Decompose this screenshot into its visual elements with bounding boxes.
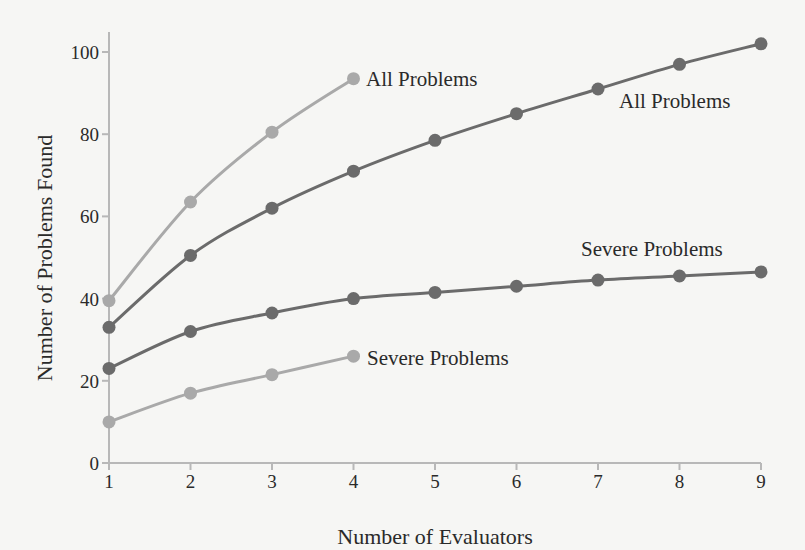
series-label: Severe Problems <box>367 346 509 370</box>
data-point <box>510 280 523 293</box>
data-point <box>266 202 279 215</box>
data-point <box>266 368 279 381</box>
y-axis-title: Number of Problems Found <box>32 135 57 381</box>
x-axis-title: Number of Evaluators <box>337 524 533 549</box>
data-point <box>103 321 116 334</box>
data-point <box>429 134 442 147</box>
y-tick-label: 60 <box>80 206 99 227</box>
data-point <box>347 292 360 305</box>
data-point <box>673 58 686 71</box>
x-tick-label: 9 <box>756 471 766 492</box>
data-point <box>755 265 768 278</box>
series-light-all-problems <box>103 72 361 307</box>
data-point <box>103 362 116 375</box>
data-point <box>184 387 197 400</box>
series-labels: All ProblemsAll ProblemsSevere ProblemsS… <box>366 67 730 370</box>
line-chart: 020406080100123456789 All ProblemsAll Pr… <box>0 0 805 550</box>
data-point <box>103 294 116 307</box>
data-point <box>673 269 686 282</box>
data-point <box>755 37 768 50</box>
series-light-severe-problems <box>103 350 361 429</box>
data-point <box>592 82 605 95</box>
data-point <box>347 165 360 178</box>
x-tick-label: 2 <box>186 471 196 492</box>
y-tick-label: 40 <box>80 289 99 310</box>
x-tick-label: 5 <box>430 471 440 492</box>
y-tick-label: 0 <box>90 453 100 474</box>
data-point <box>592 274 605 287</box>
y-tick-label: 80 <box>80 124 99 145</box>
chart-canvas: 020406080100123456789 All ProblemsAll Pr… <box>0 0 805 550</box>
series-label: Severe Problems <box>581 237 723 261</box>
data-point <box>510 107 523 120</box>
data-point <box>266 306 279 319</box>
series-label: All Problems <box>366 67 477 91</box>
x-tick-label: 6 <box>512 471 522 492</box>
x-tick-label: 7 <box>593 471 603 492</box>
data-point <box>429 286 442 299</box>
series-line <box>109 356 354 422</box>
y-tick-label: 100 <box>71 42 100 63</box>
data-point <box>103 415 116 428</box>
x-tick-label: 1 <box>104 471 114 492</box>
data-point <box>184 325 197 338</box>
data-point <box>184 249 197 262</box>
data-point <box>347 72 360 85</box>
data-point <box>266 126 279 139</box>
data-point <box>184 196 197 209</box>
series-label: All Problems <box>619 89 730 113</box>
y-tick-label: 20 <box>80 371 99 392</box>
x-tick-label: 4 <box>349 471 359 492</box>
data-point <box>347 350 360 363</box>
x-tick-label: 8 <box>675 471 685 492</box>
x-tick-label: 3 <box>267 471 277 492</box>
series-line <box>109 79 354 301</box>
